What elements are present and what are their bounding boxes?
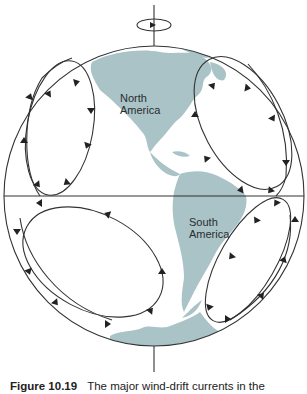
arrow-icon [271, 197, 281, 206]
arrow-icon [73, 77, 81, 86]
label-line: North [120, 92, 160, 104]
arrow-icon [44, 88, 54, 97]
south-pacific-gyre [4, 184, 182, 339]
arrow-icon [279, 255, 289, 263]
arrow-icon [105, 320, 111, 328]
arrow-icon [158, 268, 166, 274]
south-america-label: South America [189, 216, 229, 240]
label-line: South [189, 216, 229, 228]
north-pacific-gyre [16, 55, 105, 200]
arrow-icon [146, 305, 156, 315]
arrow-icon [201, 153, 211, 163]
arrow-icon [251, 216, 261, 225]
central-america-landmass [150, 152, 180, 176]
label-line: America [120, 104, 160, 116]
arrow-icon [36, 199, 42, 207]
arrow-icon [282, 160, 290, 166]
arrow-icon [244, 84, 251, 93]
figure-caption: Figure 10.19The major wind-drift current… [10, 380, 265, 392]
south-america-landmass [173, 171, 247, 312]
arrow-icon [13, 229, 21, 235]
arrow-icon [191, 111, 199, 117]
arrow-icon [291, 216, 299, 222]
ocean-gyres-diagram [0, 0, 307, 394]
arrow-icon [24, 268, 34, 276]
rotation-arrow-icon [150, 22, 156, 28]
arrow-icon [268, 114, 278, 123]
arrow-icon [208, 80, 218, 90]
arrow-icon [225, 315, 231, 323]
arrow-icon [87, 108, 95, 114]
arrow-icon [257, 290, 267, 300]
figure-number: Figure 10.19 [10, 380, 77, 392]
north-america-label: North America [120, 92, 160, 116]
arrow-icon [226, 252, 236, 262]
label-line: America [189, 228, 229, 240]
caption-text: The major wind-drift currents in the [87, 380, 265, 392]
arrow-icon [33, 180, 43, 190]
